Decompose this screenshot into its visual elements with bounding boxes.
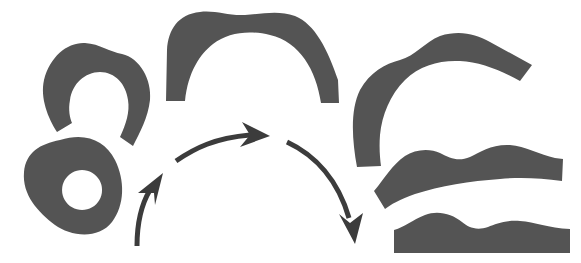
arch-shape: [166, 12, 339, 103]
flat-wavy-strip-shape: [394, 213, 570, 253]
ring-shape: [24, 137, 122, 234]
arrow-up-icon: [137, 173, 163, 246]
curved-wavy-strip-shape: [374, 145, 563, 209]
horseshoe-shape: [43, 43, 150, 146]
arrow-down-icon: [287, 142, 363, 244]
transformation-diagram: [0, 0, 581, 263]
arrow-right-icon: [176, 122, 270, 161]
